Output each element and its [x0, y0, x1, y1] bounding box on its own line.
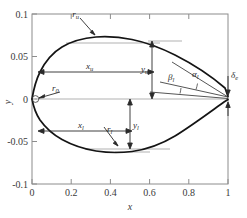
y-tick-label-0: 0.1: [16, 9, 29, 20]
y-tick-label-3: -0.05: [7, 136, 28, 147]
yu-arrow-top: [150, 41, 155, 47]
yl-label: yl: [132, 120, 139, 131]
beta-baseline-line: [160, 82, 228, 97]
x-tick-label-1: 0.2: [65, 187, 78, 198]
figure-root: 0.1 0.05 0 -0.05 -0.1 0 0.2 0.4 0.6 0.8 …: [0, 0, 247, 218]
x-tick-label-0: 0: [30, 187, 35, 198]
airfoil-geometry-figure: 0.1 0.05 0 -0.05 -0.1 0 0.2 0.4 0.6 0.8 …: [0, 0, 247, 218]
yu-label: yu: [140, 64, 149, 75]
delta-e-arrow-up: [226, 102, 230, 108]
x-tick-label-2: 0.4: [104, 187, 117, 198]
yl-arrow-bottom: [128, 143, 133, 149]
yu-arrow-bottom: [150, 93, 155, 99]
x-tick-label-4: 0.8: [183, 187, 196, 198]
xu-label: xu: [85, 61, 94, 72]
x-tick-label-3: 0.6: [143, 187, 156, 198]
yl-arrow-top: [128, 99, 133, 105]
xu-dimension: [38, 70, 154, 75]
ru-pointer: [80, 18, 95, 35]
yl-dimension: [128, 99, 133, 149]
x-tick-label-5: 1: [226, 187, 231, 198]
xl-label: xl: [77, 120, 84, 131]
xl-arrow-left: [38, 129, 44, 134]
y-axis-title: y: [2, 99, 13, 105]
alpha-label: αl: [192, 69, 199, 80]
reference-lines: [35, 41, 228, 152]
y-tick-label-1: 0.05: [11, 51, 29, 62]
x-axis-title: x: [127, 201, 133, 212]
delta-e-label: δe: [231, 70, 238, 81]
rl-label: rl: [107, 124, 113, 135]
ru-label: ru: [72, 9, 80, 20]
x-axis-ticks: [32, 179, 228, 184]
beta-label: βl: [167, 72, 174, 83]
beta-lower-line: [150, 92, 228, 99]
r0-label: r0: [52, 83, 60, 94]
xu-arrow-right: [148, 70, 154, 75]
y-tick-label-4: -0.1: [12, 179, 28, 190]
yu-dimension: [150, 41, 155, 99]
upper-surface-curve: [32, 37, 228, 99]
alpha-arc: [196, 84, 198, 90]
x-axis-ticks-top: [71, 14, 189, 19]
beta-arc: [180, 88, 181, 94]
y-tick-label-2: 0: [23, 94, 28, 105]
xl-arrow-right: [126, 129, 132, 134]
